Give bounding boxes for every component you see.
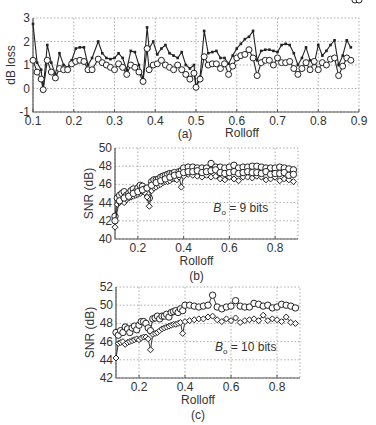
y-tick-label: 44	[100, 353, 114, 367]
plot-area	[116, 287, 300, 378]
caption: (c)	[191, 408, 205, 422]
chart-c-snr-10bits: 0.20.40.60.8424446485052SNR (dB)Rolloff(…	[83, 280, 300, 422]
y-tick-label: 50	[100, 298, 114, 312]
x-tick-label: 0.8	[267, 241, 284, 255]
y-tick-label: 3	[23, 11, 30, 25]
y-tick-label: 42	[100, 371, 114, 385]
series-circle-marker	[113, 292, 299, 338]
x-tick-label: 0.3	[106, 114, 123, 128]
x-tick-label: 0.5	[188, 114, 205, 128]
y-tick-label: 46	[100, 335, 114, 349]
y-tick-label: 2	[23, 35, 30, 49]
x-axis-label: Rolloff	[180, 254, 214, 268]
x-axis-label: Rolloff	[225, 126, 259, 140]
x-tick-label: 0.7	[269, 114, 286, 128]
y-tick-label: 48	[99, 159, 113, 173]
x-tick-label: 0.8	[310, 114, 327, 128]
chart-b-snr-9bits: 0.20.40.60.8404244464850SNR (dB)Rolloff(…	[82, 141, 298, 283]
x-tick-label: 0.8	[269, 380, 286, 394]
x-tick-label: 0.4	[175, 241, 192, 255]
y-tick-label: 0	[23, 82, 30, 96]
chart-a-dB-loss: 0.10.20.30.40.50.60.70.80.9-10123dB loss…	[4, 0, 368, 141]
x-tick-label: 0.2	[65, 114, 82, 128]
y-tick-label: 44	[99, 196, 113, 210]
caption: (a)	[178, 127, 193, 141]
x-tick-label: 0.9	[351, 114, 368, 128]
figure: 0.10.20.30.40.50.60.70.80.9-10123dB loss…	[0, 0, 376, 425]
y-axis-label: SNR (dB)	[82, 168, 96, 219]
y-tick-label: 40	[99, 232, 113, 246]
axes	[116, 287, 300, 378]
y-axis-label: SNR (dB)	[83, 307, 97, 358]
y-tick-label: 1	[23, 58, 30, 72]
y-tick-label: 48	[100, 316, 114, 330]
x-tick-label: 0.2	[130, 241, 147, 255]
annotation-bits: Bo = 10 bits	[215, 340, 277, 356]
caption: (b)	[189, 269, 204, 283]
x-tick-label: 0.4	[147, 114, 164, 128]
x-tick-label: 0.2	[131, 380, 148, 394]
y-tick-label: 52	[100, 280, 114, 294]
y-tick-label: 46	[99, 177, 113, 191]
series-square-marker	[32, 0, 361, 90]
series-diamond-marker	[112, 171, 296, 230]
y-tick-label: 50	[99, 141, 113, 155]
x-tick-label: 0.4	[177, 380, 194, 394]
y-axis-label: dB loss	[4, 45, 18, 84]
x-tick-label: 0.6	[221, 241, 238, 255]
y-tick-label: -1	[19, 105, 30, 119]
x-tick-label: 0.6	[223, 380, 240, 394]
x-axis-label: Rolloff	[181, 393, 215, 407]
y-tick-label: 42	[99, 214, 113, 228]
annotation-bits: Bo = 9 bits	[213, 201, 268, 217]
